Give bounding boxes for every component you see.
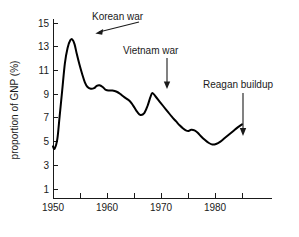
defense-spending-line-chart: proportion of GNP (%) 15 13 11 9 7 5 3 1	[0, 0, 299, 237]
annotation-vietnam-war: Vietnam war	[123, 45, 179, 89]
y-tick-label: 5	[43, 136, 49, 147]
y-tick-label: 3	[43, 160, 49, 171]
x-tick-label: 1980	[204, 202, 227, 213]
y-tick-label: 13	[38, 41, 50, 52]
annotation-korean-war: Korean war	[92, 11, 144, 35]
y-tick-label: 15	[38, 18, 50, 29]
annotation-label-korean-war: Korean war	[92, 11, 144, 22]
x-tick-label: 1970	[150, 202, 173, 213]
y-tick-label: 1	[43, 184, 49, 195]
x-axis-ticks	[53, 193, 242, 198]
y-tick-label: 7	[43, 112, 49, 123]
y-axis-title: proportion of GNP (%)	[9, 61, 20, 160]
annotation-arrow-korean-war	[99, 22, 139, 32]
annotation-arrowhead-vietnam-war	[164, 82, 170, 90]
annotation-arrowhead-korean-war	[95, 29, 103, 35]
annotation-label-reagan-buildup: Reagan buildup	[203, 79, 273, 90]
x-tick-label: 1950	[42, 202, 65, 213]
annotation-label-vietnam-war: Vietnam war	[123, 45, 179, 56]
y-axis-tick-labels: 15 13 11 9 7 5 3 1	[38, 18, 50, 195]
x-tick-label: 1960	[96, 202, 119, 213]
x-axis-tick-labels: 1950 1960 1970 1980	[42, 202, 227, 213]
y-axis-ticks	[53, 23, 58, 189]
chart-figure: proportion of GNP (%) 15 13 11 9 7 5 3 1	[0, 0, 299, 237]
y-tick-label: 11	[39, 65, 50, 76]
y-tick-label: 9	[43, 89, 49, 100]
annotation-arrowhead-reagan-buildup	[240, 128, 246, 136]
